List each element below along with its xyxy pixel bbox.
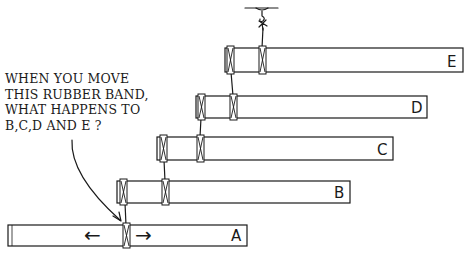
left-arrow-icon: ← <box>84 223 101 247</box>
stick-label-d: D <box>411 99 423 117</box>
rubber-band <box>160 135 167 162</box>
stick-d: D <box>196 94 427 120</box>
stick-c: C <box>157 135 393 162</box>
stick-b: B <box>117 179 350 205</box>
rubber-band <box>197 135 204 162</box>
rubber-band <box>198 94 205 120</box>
stick-diagram: ABCDE←→ <box>0 0 468 254</box>
movable-rubber-band[interactable] <box>123 223 130 248</box>
stick-body <box>117 181 350 203</box>
ceiling-hook-icon <box>245 8 278 48</box>
stick-label-c: C <box>377 141 387 159</box>
rubber-band <box>259 46 266 74</box>
stick-label-b: B <box>334 184 344 202</box>
stick-label-a: A <box>231 227 242 245</box>
string-e-d <box>231 72 233 96</box>
string-d-c <box>200 118 201 137</box>
stick-body <box>157 137 393 160</box>
rubber-band <box>162 179 169 205</box>
string-c-b <box>164 160 165 181</box>
right-arrow-icon: → <box>135 223 152 247</box>
rubber-band <box>227 46 234 74</box>
string-b-a <box>125 203 126 225</box>
rubber-band <box>230 94 237 120</box>
pointer-arrow <box>72 140 120 220</box>
stick-a: A <box>8 223 247 248</box>
stick-label-e: E <box>447 53 456 71</box>
rubber-band <box>120 179 127 205</box>
stick-e: E <box>225 46 463 74</box>
